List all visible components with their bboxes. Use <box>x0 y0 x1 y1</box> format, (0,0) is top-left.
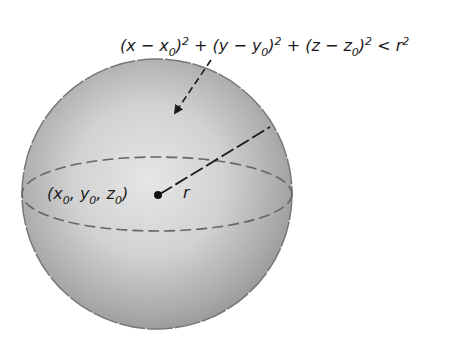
inequality-label: (x − x0)2 + (y − y0)2 + (z − z0)2 < r2 <box>120 35 409 59</box>
sphere-diagram: (x − x0)2 + (y − y0)2 + (z − z0)2 < r2 (… <box>0 0 452 363</box>
center-point <box>154 191 162 199</box>
